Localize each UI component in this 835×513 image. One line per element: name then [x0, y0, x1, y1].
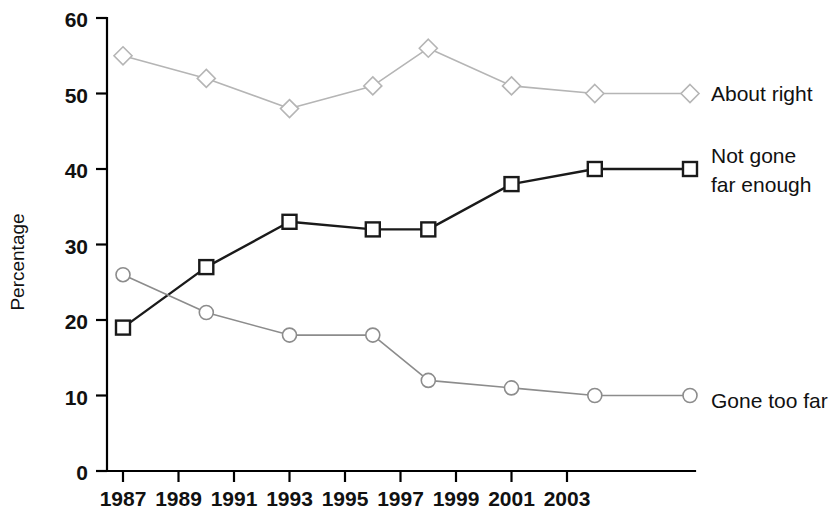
x-tick-label-1987: 1987 [100, 487, 147, 510]
series-label-about-right: About right [711, 82, 813, 105]
data-point-marker [421, 373, 435, 387]
x-tick-label-2003: 2003 [544, 487, 591, 510]
y-axis-title: Percentage [7, 213, 28, 310]
data-point-marker [588, 162, 602, 176]
data-point-marker [199, 260, 213, 274]
y-tick-label-50: 50 [65, 84, 88, 107]
series-label-not-gone-far-enough-line1: Not gone [711, 144, 796, 167]
y-tick-label-60: 60 [65, 8, 88, 31]
y-tick-label-30: 30 [65, 235, 88, 258]
series-label-marker [683, 162, 697, 176]
y-tick-label-40: 40 [65, 159, 88, 182]
x-tick-label-1991: 1991 [211, 487, 258, 510]
data-point-marker [421, 222, 435, 236]
x-tick-label-1989: 1989 [155, 487, 202, 510]
y-tick-label-0: 0 [76, 461, 88, 484]
y-tick-label-20: 20 [65, 310, 88, 333]
data-point-marker [116, 321, 130, 335]
data-point-marker [283, 215, 297, 229]
data-point-marker [588, 389, 602, 403]
line-chart: 60 50 40 30 20 10 0 1987 1989 1991 1993 [0, 0, 835, 513]
data-point-marker [505, 381, 519, 395]
x-tick-label-1999: 1999 [433, 487, 480, 510]
series-label-marker [683, 389, 697, 403]
x-tick-label-1997: 1997 [377, 487, 424, 510]
chart-background [0, 0, 835, 513]
x-tick-label-2001: 2001 [488, 487, 535, 510]
series-label-gone-too-far: Gone too far [711, 389, 828, 412]
x-tick-label-1995: 1995 [322, 487, 369, 510]
data-point-marker [199, 306, 213, 320]
x-tick-label-1993: 1993 [266, 487, 313, 510]
data-point-marker [283, 328, 297, 342]
series-label-not-gone-far-enough-line2: far enough [711, 173, 811, 196]
data-point-marker [116, 268, 130, 282]
y-tick-label-10: 10 [65, 386, 88, 409]
data-point-marker [366, 222, 380, 236]
data-point-marker [366, 328, 380, 342]
data-point-marker [505, 177, 519, 191]
chart-canvas: 60 50 40 30 20 10 0 1987 1989 1991 1993 [0, 0, 835, 513]
